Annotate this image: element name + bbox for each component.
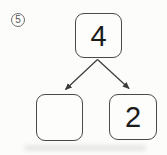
- problem-number-badge: 5: [11, 13, 25, 27]
- whole-number-value: 4: [90, 21, 106, 51]
- problem-number: 5: [15, 15, 21, 25]
- right-part-box: 2: [109, 94, 157, 140]
- arrow-down-left-icon: [66, 60, 98, 90]
- whole-number-box: 4: [75, 13, 122, 58]
- scan-smudge-artifact: [24, 145, 146, 151]
- right-part-value: 2: [125, 102, 141, 132]
- worksheet-number-bond-diagram: 5 4 2: [0, 0, 167, 155]
- left-part-answer-box[interactable]: [36, 94, 83, 141]
- arrow-down-right-icon: [98, 60, 130, 89]
